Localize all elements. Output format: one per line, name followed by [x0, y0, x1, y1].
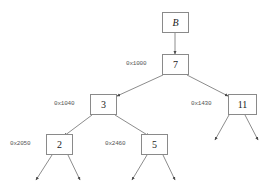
node-11-label: 11: [238, 100, 248, 110]
edge-2-to-null-right: [68, 155, 80, 180]
edge-11-to-null-left: [215, 115, 229, 140]
node-5: 5: [141, 134, 168, 155]
node-2: 2: [46, 134, 73, 155]
node-2-label: 2: [57, 140, 62, 150]
edge-11-to-null-right: [245, 115, 258, 140]
edge-2-to-null-left: [36, 155, 52, 180]
address-label-node-2: 0x2050: [10, 141, 30, 147]
node-3-label: 3: [101, 100, 106, 110]
node-root-pointer: B: [162, 12, 189, 33]
address-label-node-5: 0x2460: [105, 141, 125, 147]
node-root-pointer-label: B: [172, 18, 178, 28]
edge-3-to-2: [64, 115, 92, 136]
edge-5-to-null-right: [163, 155, 175, 180]
node-3: 3: [90, 94, 117, 115]
tree-diagram-canvas: B 7 0x1000 3 0x1040 11 0x1430 2 0x2050 5…: [0, 0, 271, 190]
address-label-node-3: 0x1040: [54, 101, 74, 107]
node-5-label: 5: [152, 140, 157, 150]
edge-7-to-3: [117, 75, 163, 96]
node-11: 11: [228, 94, 257, 115]
edge-3-to-5: [115, 115, 149, 136]
node-7: 7: [162, 54, 189, 75]
node-7-label: 7: [173, 60, 178, 70]
edge-7-to-11: [187, 75, 228, 96]
edge-5-to-null-left: [132, 155, 147, 180]
address-label-node-11: 0x1430: [191, 101, 211, 107]
address-label-node-7: 0x1000: [126, 61, 146, 67]
